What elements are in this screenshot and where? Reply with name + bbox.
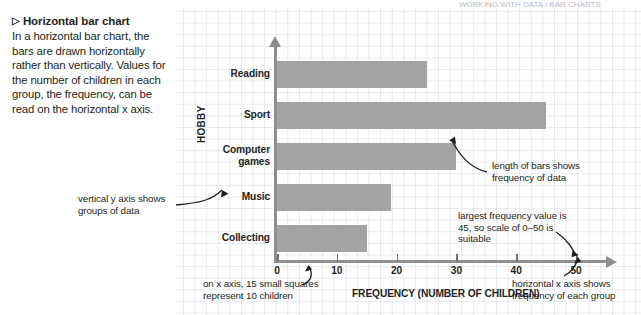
x-axis-tick <box>277 254 279 261</box>
category-label-group: ReadingSportComputergamesMusicCollecting <box>150 0 270 315</box>
category-label: Computergames <box>158 144 270 168</box>
annotation-x-axis: horizontal x axis shows frequency of eac… <box>512 278 616 301</box>
x-axis-tick-label: 20 <box>391 265 402 276</box>
bar <box>277 102 546 129</box>
x-axis-tick <box>456 254 458 261</box>
horizontal-bar-chart: ReadingSportComputergamesMusicCollecting… <box>0 0 641 315</box>
bar <box>277 184 391 211</box>
annotation-bar-length: length of bars shows frequency of data <box>492 160 598 183</box>
category-label: Reading <box>158 68 270 80</box>
annotation-largest-value: largest frequency value is 45, so scale … <box>458 210 568 245</box>
bar <box>277 225 367 252</box>
x-axis-tick-label: 40 <box>511 265 522 276</box>
category-label: Collecting <box>158 232 270 244</box>
y-axis-title: HOBBY <box>196 105 207 143</box>
x-axis-line <box>274 260 611 263</box>
x-axis-tick-label: 0 <box>274 265 280 276</box>
bar <box>277 143 456 170</box>
x-axis-tick <box>397 254 399 261</box>
x-axis-tick-label: 30 <box>451 265 462 276</box>
annotation-small-squares: on x axis, 15 small squares represent 10… <box>203 278 319 301</box>
x-axis-arrow-icon <box>606 256 617 268</box>
x-axis-tick <box>576 254 578 261</box>
x-axis-tick-label: 10 <box>331 265 342 276</box>
annotation-y-axis: vertical y axis shows groups of data <box>78 193 190 216</box>
x-axis-tick <box>337 254 339 261</box>
category-label: Sport <box>158 109 270 121</box>
x-axis-tick <box>516 254 518 261</box>
x-axis-tick-label: 50 <box>570 265 581 276</box>
bar <box>277 61 427 88</box>
y-axis-arrow-icon <box>269 36 281 47</box>
